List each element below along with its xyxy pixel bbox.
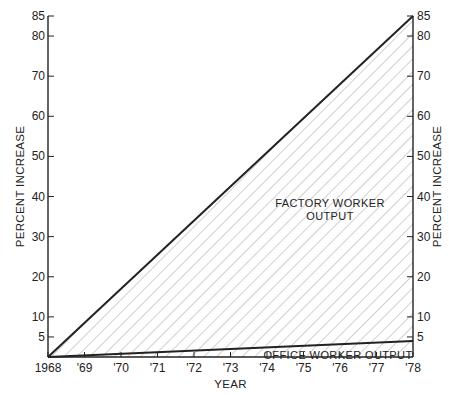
- left-y-tick-label: 60: [32, 109, 46, 123]
- right-y-tick-label: 80: [417, 29, 431, 43]
- x-tick-label: '74: [259, 361, 275, 375]
- right-y-tick-label: 5: [417, 330, 424, 344]
- x-tick-label: '78: [405, 361, 421, 375]
- left-y-tick-label: 80: [32, 29, 46, 43]
- right-y-tick-label: 30: [417, 230, 431, 244]
- right-y-tick-label: 60: [417, 109, 431, 123]
- x-tick-label: '76: [332, 361, 348, 375]
- left-y-tick-label: 5: [38, 330, 45, 344]
- x-tick-label: 1968: [35, 361, 62, 375]
- x-tick-label: '70: [113, 361, 129, 375]
- right-y-tick-label: 40: [417, 190, 431, 204]
- left-y-tick-label: 85: [32, 9, 46, 23]
- left-y-tick-label: 40: [32, 190, 46, 204]
- productivity-chart: 5510102020303040405050606070708080858519…: [0, 0, 449, 395]
- x-tick-label: '77: [369, 361, 385, 375]
- x-tick-label: '73: [223, 361, 239, 375]
- factory-worker-label-line2: OUTPUT: [306, 210, 354, 222]
- x-tick-label: '72: [186, 361, 202, 375]
- left-y-tick-label: 10: [32, 310, 46, 324]
- plot-area: 5510102020303040405050606070708080858519…: [14, 9, 443, 390]
- x-tick-label: '69: [77, 361, 93, 375]
- left-y-tick-label: 30: [32, 230, 46, 244]
- left-y-tick-label: 20: [32, 270, 46, 284]
- right-y-tick-label: 70: [417, 69, 431, 83]
- right-y-axis-title: PERCENT INCREASE: [431, 126, 443, 248]
- right-y-tick-label: 20: [417, 270, 431, 284]
- office-worker-label: OFFICE WORKER OUTPUT: [263, 349, 412, 361]
- right-y-tick-label: 10: [417, 310, 431, 324]
- right-y-tick-label: 50: [417, 149, 431, 163]
- left-y-axis-title: PERCENT INCREASE: [14, 126, 26, 248]
- factory-worker-label-line1: FACTORY WORKER: [275, 197, 385, 209]
- left-y-tick-label: 50: [32, 149, 46, 163]
- left-y-tick-label: 70: [32, 69, 46, 83]
- x-tick-label: '71: [150, 361, 166, 375]
- x-tick-label: '75: [296, 361, 312, 375]
- right-y-tick-label: 85: [417, 9, 431, 23]
- x-axis-title: YEAR: [214, 378, 247, 390]
